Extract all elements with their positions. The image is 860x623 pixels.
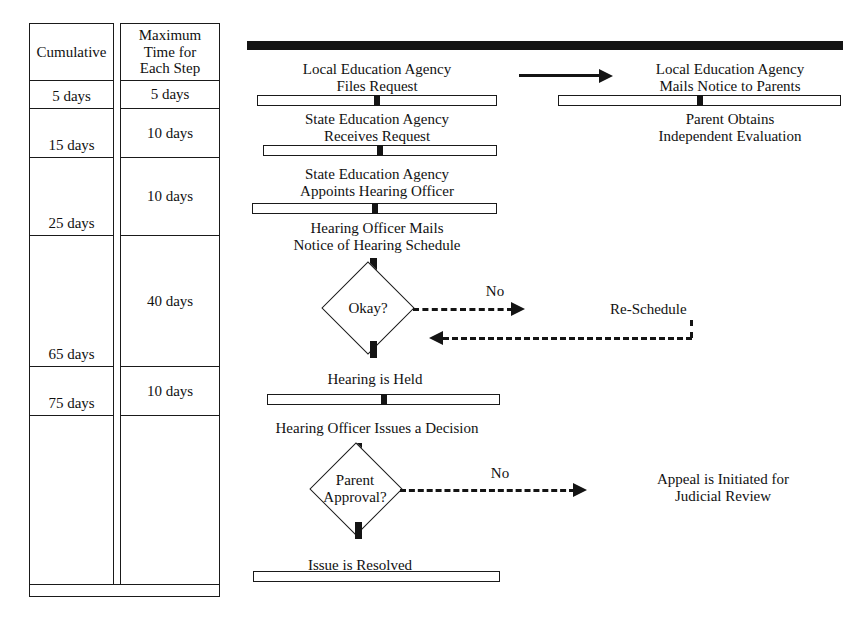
node-line: Independent Evaluation bbox=[610, 128, 850, 145]
process-bar-notch bbox=[697, 95, 703, 106]
node-label-hearing-held: Hearing is Held bbox=[270, 371, 480, 388]
decision-line: Approval? bbox=[300, 489, 410, 506]
node-label-lea-files: Local Education Agency Files Request bbox=[257, 61, 497, 96]
process-bar-notch bbox=[377, 145, 383, 156]
process-flowchart: Local Education Agency Files Request Loc… bbox=[0, 0, 860, 623]
top-black-bar bbox=[247, 41, 843, 50]
dashed-line-reschedule-back bbox=[443, 337, 692, 340]
process-bar-issue-resolved bbox=[253, 571, 500, 582]
arrowhead-left-icon bbox=[429, 331, 443, 345]
dashed-line-reschedule-down bbox=[690, 320, 693, 338]
node-label-lea-mails: Local Education Agency Mails Notice to P… bbox=[610, 61, 850, 96]
node-label-parent-obtains: Parent Obtains Independent Evaluation bbox=[610, 111, 850, 146]
arrowhead-right-icon bbox=[573, 483, 587, 497]
edge-label-parent-no: No bbox=[455, 465, 545, 482]
decision-label-parent-approval: Parent Approval? bbox=[300, 472, 410, 507]
process-bar-notch bbox=[381, 394, 387, 405]
dashed-line-okay-no bbox=[413, 308, 513, 311]
connector-stub-approval-yes bbox=[355, 522, 362, 539]
edge-label-okay-no: No bbox=[450, 283, 540, 300]
node-line: Appoints Hearing Officer bbox=[257, 183, 497, 200]
node-label-ho-mails: Hearing Officer Mails Notice of Hearing … bbox=[257, 220, 497, 255]
node-line: Notice of Hearing Schedule bbox=[257, 237, 497, 254]
process-bar-notch bbox=[374, 95, 380, 106]
node-line: Files Request bbox=[257, 78, 497, 95]
process-bar-notch bbox=[372, 203, 378, 214]
node-line: Parent Obtains bbox=[610, 111, 850, 128]
node-line: Judicial Review bbox=[608, 488, 838, 505]
node-line: Mails Notice to Parents bbox=[610, 78, 850, 95]
node-label-sea-appoints: State Education Agency Appoints Hearing … bbox=[257, 166, 497, 201]
node-line: State Education Agency bbox=[257, 166, 497, 183]
decision-line: Parent bbox=[300, 472, 410, 489]
process-bar-sea-appoints bbox=[252, 203, 497, 214]
decision-label-okay: Okay? bbox=[313, 300, 423, 317]
process-bar-lea-mails bbox=[558, 95, 841, 106]
node-line: Receives Request bbox=[257, 128, 497, 145]
process-bar-lea-files bbox=[257, 95, 497, 106]
dashed-line-parent-no bbox=[400, 489, 575, 492]
process-bar-sea-receives bbox=[263, 145, 497, 156]
process-bar-hearing-held bbox=[267, 394, 500, 405]
node-line: State Education Agency bbox=[257, 111, 497, 128]
node-line: Local Education Agency bbox=[257, 61, 497, 78]
arrow-line-lea-to-parents bbox=[519, 74, 601, 77]
connector-stub-okay-yes bbox=[370, 341, 377, 358]
arrowhead-right-icon bbox=[511, 302, 525, 316]
node-line: Local Education Agency bbox=[610, 61, 850, 78]
node-line: Hearing Officer Mails bbox=[257, 220, 497, 237]
node-label-sea-receives: State Education Agency Receives Request bbox=[257, 111, 497, 146]
node-label-ho-decision: Hearing Officer Issues a Decision bbox=[252, 420, 502, 437]
node-label-appeal: Appeal is Initiated for Judicial Review bbox=[608, 471, 838, 506]
node-line: Appeal is Initiated for bbox=[608, 471, 838, 488]
node-label-re-schedule: Re-Schedule bbox=[610, 301, 790, 318]
